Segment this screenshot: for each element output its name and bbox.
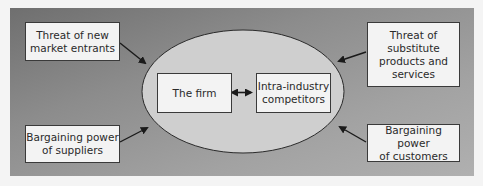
firm-box: The firm [157,73,232,113]
force-label-line: of customers [368,150,459,163]
force-label-line: Bargaining power [26,131,118,144]
arrow-new-entrants [120,43,145,63]
force-label-line: Threat of [379,29,448,42]
firm-label: The firm [173,87,217,100]
force-label-line: market entrants [30,42,115,55]
force-box-new-entrants: Threat of new market entrants [25,22,120,61]
competitors-box: Intra-industry competitors [256,73,331,113]
arrow-substitutes [339,52,366,61]
force-label-line: services [379,68,448,81]
force-label-line: Bargaining power [368,124,459,150]
force-box-customers: Bargaining power of customers [367,124,460,162]
force-label-line: products and [379,55,448,68]
force-box-substitutes: Threat of substitute products and servic… [367,22,460,87]
force-label-line: Threat of new [30,29,115,42]
arrow-suppliers [120,128,147,142]
competitors-label-line: Intra-industry [258,80,329,93]
force-label-line: of suppliers [26,144,118,157]
arrow-customers [340,127,366,142]
force-label-line: substitute [379,42,448,55]
force-box-suppliers: Bargaining power of suppliers [25,125,120,163]
competitors-label-line: competitors [258,93,329,106]
